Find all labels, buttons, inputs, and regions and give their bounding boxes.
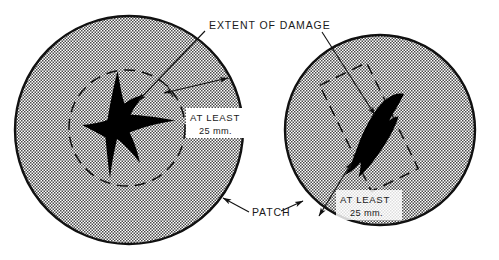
left-view: AT LEAST 25 mm. (15, 16, 253, 244)
right-25mm-label: 25 mm. (350, 208, 383, 218)
patch-label: PATCH (252, 206, 291, 218)
left-patch-leader-line (223, 198, 249, 212)
left-at-least-label: AT LEAST (190, 112, 240, 123)
right-at-least-label: AT LEAST (340, 194, 390, 205)
right-view: AT LEAST 25 mm. (281, 32, 475, 225)
damage-patch-diagram: AT LEAST 25 mm. AT LEAST 25 mm. EXTENT O… (0, 0, 499, 260)
extent-of-damage-label: EXTENT OF DAMAGE (209, 19, 331, 31)
left-25mm-label: 25 mm. (199, 126, 232, 136)
diagram-canvas: AT LEAST 25 mm. AT LEAST 25 mm. EXTENT O… (0, 0, 499, 260)
